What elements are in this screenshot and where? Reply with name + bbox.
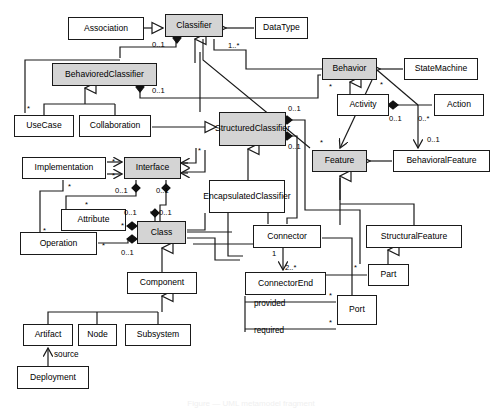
multiplicity-m-part-star: * — [354, 263, 357, 272]
class-box-class[interactable]: Class — [137, 221, 186, 244]
class-label-line: Operation — [40, 239, 78, 248]
class-box-connectorend[interactable]: ConnectorEnd — [245, 272, 326, 295]
class-box-part[interactable]: Part — [368, 264, 409, 286]
class-box-usecase[interactable]: UseCase — [14, 115, 74, 137]
multiplicity-m-behcls-struct: 0..1 — [152, 86, 165, 95]
class-label-line: Behavior — [333, 64, 367, 73]
class-label-line: Collaboration — [90, 121, 141, 130]
class-label-line: Node — [87, 330, 108, 339]
class-label-line: Component — [140, 278, 184, 287]
class-label-line: Activity — [349, 100, 376, 109]
class-label-line: Action — [447, 100, 471, 109]
class-label-line: Structured — [215, 124, 255, 133]
class-box-port[interactable]: Port — [337, 295, 377, 325]
class-box-deployment[interactable]: Deployment — [17, 366, 89, 389]
class-label-line: BehavioralFeature — [406, 156, 476, 165]
multiplicity-m-class-bottom: 0..1 — [121, 248, 134, 257]
class-label-line: Association — [84, 24, 128, 33]
class-label-line: Artifact — [35, 330, 62, 339]
class-box-subsystem[interactable]: Subsystem — [125, 324, 191, 346]
class-box-behavioralfeature[interactable]: BehavioralFeature — [393, 150, 490, 172]
class-box-structuralfeature[interactable]: StructuralFeature — [366, 225, 462, 248]
multiplicity-m-iface-left: 0..1 — [115, 186, 128, 195]
multiplicity-m-feature-star: * — [320, 138, 323, 147]
class-box-encapsulatedclassifier[interactable]: EncapsulatedClassifier — [209, 180, 285, 213]
multiplicity-m-struct-bottom: 0..1 — [288, 142, 301, 151]
class-label-line: Classifier — [176, 21, 211, 30]
class-label-line: Part — [381, 270, 397, 279]
class-label-line: Encapsulated — [203, 192, 255, 201]
multiplicity-m-oper-star2: * — [102, 241, 105, 250]
multiplicity-m-struct-top: 0..1 — [288, 104, 301, 113]
class-label-line: Interface — [136, 163, 169, 172]
multiplicity-m-action-mult: 0..* — [418, 114, 429, 123]
class-label-line: StateMachine — [415, 64, 468, 73]
multiplicity-m-usecase-star: * — [27, 104, 30, 113]
class-label-line: Deployment — [30, 373, 76, 382]
edge-label-lbl-source: source — [54, 350, 79, 359]
multiplicity-m-port-required: * — [329, 318, 332, 327]
class-label-line: BehavioredClassifier — [65, 70, 144, 79]
multiplicity-m-impl-star1: * — [112, 157, 115, 166]
class-box-activity[interactable]: Activity — [337, 94, 389, 116]
multiplicity-m-iface-right: 0..1 — [156, 186, 169, 195]
multiplicity-m-impl-down-star: * — [68, 182, 71, 191]
class-label-line: Attribute — [77, 215, 109, 224]
class-box-collaboration[interactable]: Collaboration — [79, 115, 151, 137]
multiplicity-m-behavior-star: * — [329, 82, 332, 91]
class-box-node[interactable]: Node — [78, 324, 117, 346]
multiplicity-m-connectorend-2: 2..* — [285, 263, 296, 272]
multiplicity-m-oper-star1: * — [43, 226, 46, 235]
class-box-attribute[interactable]: Attribute — [61, 209, 126, 231]
class-box-structuredclassifier[interactable]: StructuredClassifier — [219, 112, 286, 146]
uml-diagram-canvas: Association Classifier DataType Behavior… — [0, 0, 502, 409]
class-box-behavioredclassifier[interactable]: BehavioredClassifier — [52, 63, 157, 86]
class-box-datatype[interactable]: DataType — [255, 17, 308, 39]
class-label-line: Subsystem — [137, 330, 180, 339]
multiplicity-m-impl-star2: * — [112, 171, 115, 180]
class-label-line: Implementation — [35, 163, 94, 172]
class-box-component[interactable]: Component — [127, 272, 197, 294]
class-label-line: Feature — [325, 156, 355, 165]
multiplicity-m-connector-1: 1 — [272, 249, 276, 258]
multiplicity-m-assoc-classifier: 0..1 — [152, 40, 165, 49]
class-box-behavior[interactable]: Behavior — [322, 58, 377, 80]
class-label-line: UseCase — [26, 121, 61, 130]
class-label-line: Port — [349, 305, 365, 314]
class-box-implementation[interactable]: Implementation — [22, 157, 106, 179]
class-box-action[interactable]: Action — [434, 94, 484, 116]
class-box-connector[interactable]: Connector — [253, 225, 321, 248]
figure-caption: Figure — UML metamodel fragment — [0, 399, 502, 408]
class-box-artifact[interactable]: Artifact — [23, 324, 73, 346]
class-box-statemachine[interactable]: StateMachine — [404, 58, 478, 80]
class-box-feature[interactable]: Feature — [312, 150, 367, 172]
class-box-operation[interactable]: Operation — [20, 232, 97, 255]
class-box-classifier[interactable]: Classifier — [165, 14, 223, 37]
edge-label-lbl-provided: provided — [254, 299, 285, 308]
class-label-line: Classifier — [255, 192, 290, 201]
class-box-interface[interactable]: Interface — [124, 157, 181, 179]
multiplicity-m-port-provided: * — [329, 291, 332, 300]
multiplicity-m-activity-action: 0..1 — [389, 114, 402, 123]
class-label-line: Class — [151, 228, 173, 237]
class-box-association[interactable]: Association — [68, 17, 144, 40]
multiplicity-m-attr-star: * — [121, 221, 124, 230]
edge-label-lbl-required: required — [254, 326, 284, 335]
multiplicity-m-class-left: 0..1 — [124, 208, 137, 217]
class-label-line: Classifier — [255, 124, 290, 133]
class-label-line: Connector — [267, 232, 307, 241]
class-label-line: DataType — [263, 23, 300, 32]
multiplicity-m-attr-up-star: * — [85, 200, 88, 209]
multiplicity-m-interface-star: * — [198, 146, 201, 155]
multiplicity-m-behfeat: 0..1 — [427, 135, 440, 144]
multiplicity-m-statemachine-star: * — [380, 80, 383, 89]
class-label-line: StructuralFeature — [381, 232, 447, 241]
class-label-line: ConnectorEnd — [258, 279, 313, 288]
multiplicity-m-classifier-dt: 1..* — [228, 41, 239, 50]
multiplicity-m-class-right: 0..1 — [159, 208, 172, 217]
